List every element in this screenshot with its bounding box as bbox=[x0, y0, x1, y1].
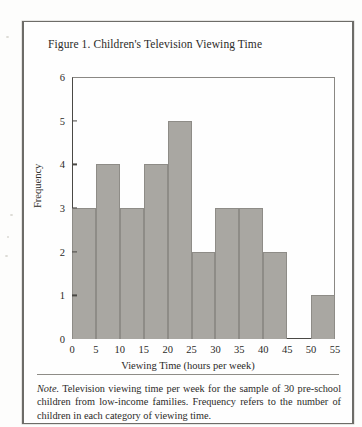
histogram-bar bbox=[144, 164, 168, 339]
histogram-bar bbox=[239, 208, 263, 339]
y-tick-mark bbox=[72, 295, 77, 296]
y-tick-label: 6 bbox=[60, 72, 65, 83]
x-tick-label: 40 bbox=[258, 344, 269, 355]
histogram-bar bbox=[311, 295, 335, 339]
y-tick-mark bbox=[72, 120, 77, 121]
histogram-bar bbox=[120, 208, 144, 339]
y-axis-label: Frequency bbox=[32, 164, 43, 208]
x-tick-label: 30 bbox=[210, 344, 221, 355]
note-body: Television viewing time per week for the… bbox=[37, 383, 341, 421]
histogram-bar bbox=[192, 252, 216, 339]
note-divider bbox=[37, 374, 339, 375]
x-tick-label: 5 bbox=[93, 344, 98, 355]
histogram-bar bbox=[96, 164, 120, 339]
figure-note: Note. Television viewing time per week f… bbox=[37, 382, 341, 422]
y-tick-label: 3 bbox=[60, 203, 65, 214]
scanned-page: Figure 1. Children's Television Viewing … bbox=[0, 0, 362, 427]
x-tick-label: 25 bbox=[186, 344, 197, 355]
figure-sheet: Figure 1. Children's Television Viewing … bbox=[22, 21, 354, 424]
y-tick-label: 0 bbox=[60, 334, 65, 345]
y-tick-mark bbox=[72, 164, 77, 165]
x-tick-label: 35 bbox=[234, 344, 245, 355]
x-tick-label: 50 bbox=[306, 344, 317, 355]
scan-speckle bbox=[7, 236, 9, 238]
y-tick-label: 1 bbox=[60, 290, 65, 301]
x-tick-label: 45 bbox=[282, 344, 293, 355]
x-tick-label: 10 bbox=[115, 344, 126, 355]
scan-speckle bbox=[5, 255, 8, 257]
x-tick-label: 55 bbox=[330, 344, 341, 355]
histogram-bar bbox=[168, 121, 192, 339]
note-lead: Note. bbox=[37, 383, 59, 394]
chart-plot-area: 0123456 0510152025303540455055 bbox=[72, 77, 335, 339]
y-tick-mark bbox=[72, 251, 77, 252]
x-tick-label: 0 bbox=[69, 344, 74, 355]
histogram-bars bbox=[72, 77, 335, 339]
histogram-bar bbox=[72, 208, 96, 339]
x-tick-label: 15 bbox=[138, 344, 149, 355]
y-tick-label: 5 bbox=[60, 115, 65, 126]
y-tick-label: 2 bbox=[60, 246, 65, 257]
x-tick-label: 20 bbox=[162, 344, 173, 355]
x-axis-label: Viewing Time (hours per week) bbox=[24, 360, 352, 371]
histogram-bar bbox=[215, 208, 239, 339]
scan-speckle bbox=[6, 36, 9, 38]
figure-title: Figure 1. Children's Television Viewing … bbox=[48, 38, 262, 50]
y-tick-mark bbox=[72, 207, 77, 208]
y-tick-label: 4 bbox=[60, 159, 65, 170]
scan-speckle bbox=[10, 214, 13, 216]
histogram-bar bbox=[263, 252, 287, 339]
